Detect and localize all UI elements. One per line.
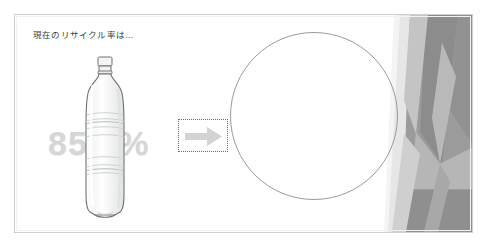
page-title: 現在のリサイクル率は…	[33, 29, 134, 41]
arrow-selection-box[interactable]	[178, 119, 228, 152]
slide-canvas[interactable]: 現在のリサイクル率は… 85.8%	[14, 14, 473, 233]
right-arrow-shape	[185, 127, 222, 146]
empty-circle-shape[interactable]	[230, 32, 398, 200]
pet-bottle-image[interactable]	[77, 55, 133, 220]
cut-off-caption	[52, 0, 352, 9]
